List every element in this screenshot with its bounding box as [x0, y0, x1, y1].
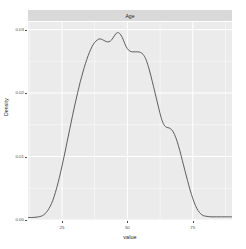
plot-panel	[28, 22, 232, 220]
x-tick-label: 75	[183, 225, 203, 230]
x-tick-mark	[62, 221, 63, 223]
x-tick-mark	[193, 221, 194, 223]
x-tick-label: 50	[117, 225, 137, 230]
facet-strip: Age	[28, 10, 232, 21]
facet-strip-label: Age	[125, 13, 134, 19]
density-plot: Density 0.000.010.020.03 255075 value Ag…	[0, 0, 246, 249]
density-curve-svg	[28, 22, 232, 220]
x-tick-label: 25	[52, 225, 72, 230]
x-axis-title: value	[28, 234, 232, 240]
x-tick-mark	[127, 221, 128, 223]
